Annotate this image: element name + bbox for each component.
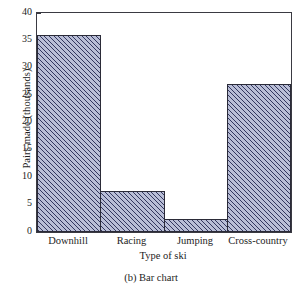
y-tick-mark xyxy=(37,13,41,14)
bar-cross-country[interactable] xyxy=(227,84,291,232)
y-tick-label: 0 xyxy=(16,226,32,236)
x-tick-label-jumping: Jumping xyxy=(163,234,227,247)
y-tick-label: 5 xyxy=(16,198,32,208)
x-tick-label-cross-country: Cross-country xyxy=(225,234,291,247)
bar-jumping[interactable] xyxy=(164,219,228,232)
plot-area xyxy=(36,12,292,233)
y-tick-label: 10 xyxy=(16,171,32,181)
y-tick-label: 15 xyxy=(16,143,32,153)
y-tick-label: 40 xyxy=(16,7,32,17)
x-tick-label-racing: Racing xyxy=(99,234,164,247)
x-axis-title: Type of ski xyxy=(36,250,290,261)
y-tick-label: 35 xyxy=(16,34,32,44)
y-axis-tick-labels: 40 35 30 25 20 15 10 5 0 xyxy=(14,0,32,290)
y-tick-label: 20 xyxy=(16,116,32,126)
x-tick-label-downhill: Downhill xyxy=(36,234,100,247)
bar-racing[interactable] xyxy=(100,191,165,232)
x-axis-tick-labels: Downhill Racing Jumping Cross-country xyxy=(36,234,290,250)
bar-chart-figure: Pairs made (thousands) 40 35 30 25 20 15… xyxy=(0,0,302,290)
y-tick-mark xyxy=(37,232,41,233)
y-tick-label: 25 xyxy=(16,89,32,99)
bar-downhill[interactable] xyxy=(37,35,101,232)
y-tick-label: 30 xyxy=(16,61,32,71)
figure-caption: (b) Bar chart xyxy=(0,272,302,283)
